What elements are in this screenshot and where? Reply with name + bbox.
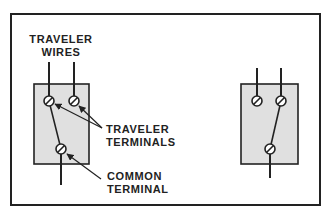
traveler-terminal-screw-icon: [69, 96, 79, 106]
three-way-switch-diagram: TRAVELER WIRES TRAVELER TERMINALS COMMON…: [0, 0, 333, 218]
traveler-terminal-screw-icon: [252, 96, 262, 106]
common-terminal-screw-icon: [56, 144, 66, 154]
traveler-terminals-label-line2: TERMINALS: [106, 136, 176, 148]
traveler-terminals-label-line1: TRAVELER: [106, 123, 169, 135]
traveler-wires-label-line2: WIRES: [41, 46, 80, 58]
traveler-terminal-screw-icon: [44, 96, 54, 106]
traveler-terminal-screw-icon: [276, 96, 286, 106]
common-terminal-label-line2: TERMINAL: [107, 183, 169, 195]
traveler-wires-label-line1: TRAVELER: [29, 33, 92, 45]
common-terminal-label-line1: COMMON: [107, 170, 162, 182]
right-switch: [241, 68, 298, 178]
common-terminal-screw-icon: [265, 144, 275, 154]
